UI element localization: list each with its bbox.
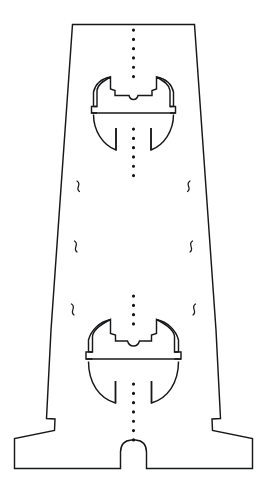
- dieline-drawing: [0, 0, 267, 499]
- technical-drawing-canvas: [0, 0, 267, 499]
